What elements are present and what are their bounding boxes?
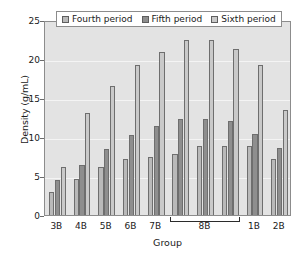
bar (129, 135, 134, 215)
bar (74, 179, 79, 215)
bar (178, 119, 183, 215)
legend-swatch-icon (62, 16, 69, 23)
x-tick-label: 2B (273, 222, 285, 231)
group-bracket (170, 217, 240, 223)
bar (252, 134, 257, 215)
chart-legend: Fourth periodFifth periodSixth period (56, 11, 282, 27)
bar (197, 146, 202, 215)
x-tick-label: 7B (149, 222, 161, 231)
bar-chart: Density (g/mL) 0510152025 Fourth periodF… (0, 0, 301, 258)
bar (172, 154, 177, 215)
bar (247, 146, 252, 215)
x-tick-label: 4B (75, 222, 87, 231)
x-tick-label: 3B (50, 222, 62, 231)
x-axis-tick-labels: 3B4B5B6B7B1B2B8B (44, 222, 291, 236)
legend-swatch-icon (142, 16, 149, 23)
y-tick-label: 10 (22, 134, 40, 143)
bar (79, 165, 84, 215)
x-tick-label-bracketed: 8B (199, 222, 211, 231)
y-tick-label: 15 (22, 95, 40, 104)
bar (228, 121, 233, 215)
bar (271, 159, 276, 215)
y-tick-label: 20 (22, 56, 40, 65)
y-tickmark (40, 216, 44, 217)
y-tickmark (40, 138, 44, 139)
bar (148, 157, 153, 215)
x-axis-title: Group (44, 237, 291, 248)
x-tick-label: 6B (124, 222, 136, 231)
legend-label: Fourth period (72, 15, 133, 24)
bar (283, 110, 288, 215)
x-tick-label: 1B (248, 222, 260, 231)
bar (98, 167, 103, 215)
bar (61, 167, 66, 215)
bar (258, 65, 263, 215)
bar (222, 146, 227, 215)
y-tickmark (40, 99, 44, 100)
bracket-bar (170, 221, 240, 222)
bar (55, 180, 60, 215)
bar (203, 119, 208, 215)
bar (110, 86, 115, 215)
bar (209, 40, 214, 215)
legend-label: Sixth period (221, 15, 275, 24)
y-tick-label: 5 (22, 173, 40, 182)
legend-swatch-icon (211, 16, 218, 23)
bar (104, 149, 109, 215)
bar (184, 40, 189, 215)
bar (123, 159, 128, 215)
y-tickmark (40, 177, 44, 178)
bars-layer (45, 22, 290, 215)
bar (154, 126, 159, 215)
y-tick-label: 25 (22, 17, 40, 26)
legend-item: Fourth period (62, 15, 133, 24)
bracket-tip-right (239, 217, 240, 222)
legend-item: Sixth period (211, 15, 275, 24)
legend-label: Fifth period (152, 15, 203, 24)
legend-item: Fifth period (142, 15, 203, 24)
y-tickmark (40, 21, 44, 22)
bar (49, 192, 54, 215)
y-tick-label: 0 (22, 212, 40, 221)
x-tick-label: 5B (100, 222, 112, 231)
y-tickmark (40, 60, 44, 61)
bar (233, 49, 238, 215)
bar (135, 65, 140, 215)
bar (277, 148, 282, 215)
plot-area (44, 21, 291, 216)
y-axis-tick-labels: 0510152025 (22, 0, 40, 258)
bar (85, 113, 90, 215)
bar (159, 52, 164, 215)
